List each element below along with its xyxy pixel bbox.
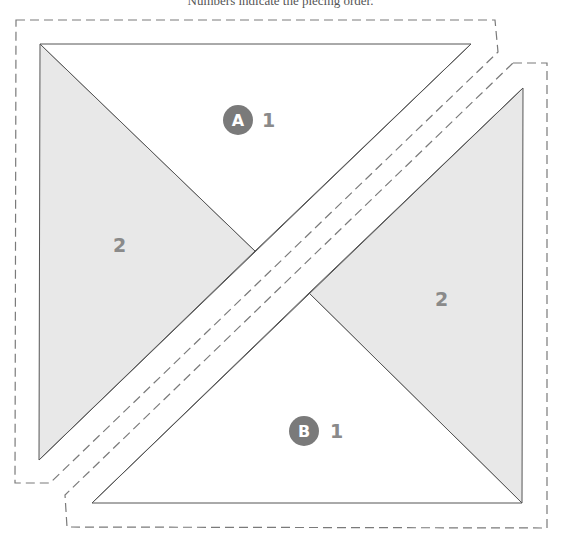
- unit-b-piece-1-label: 1: [330, 420, 343, 442]
- unit-b-piece-2-label: 2: [435, 288, 448, 310]
- unit-a-badge-letter: A: [232, 111, 245, 130]
- unit-b-badge-letter: B: [298, 422, 310, 441]
- piecing-diagram: A 1 2 B 1 2: [0, 0, 561, 542]
- unit-a-piece-1-label: 1: [262, 109, 275, 131]
- unit-a-piece-2-label: 2: [113, 234, 126, 256]
